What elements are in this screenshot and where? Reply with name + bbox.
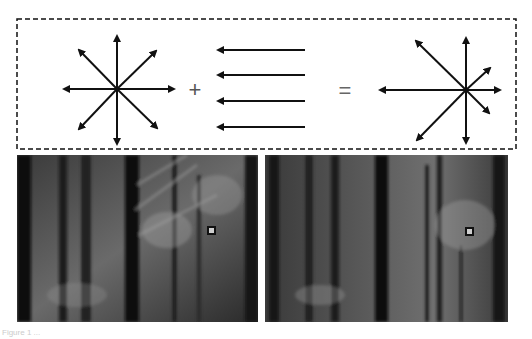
right-forest-photo <box>265 155 508 322</box>
equals-sign: = <box>339 78 352 103</box>
flow-diagram: + = <box>0 0 532 155</box>
translation-arrows-icon <box>218 50 305 127</box>
focus-marker <box>465 227 474 236</box>
dashed-frame <box>17 19 516 149</box>
radial-star-icon <box>64 36 174 144</box>
focus-marker <box>207 226 216 235</box>
plus-sign: + <box>189 77 202 102</box>
shifted-star-icon <box>380 38 500 143</box>
left-forest-photo <box>17 155 258 322</box>
figure-caption: Figure 1 ... <box>2 328 40 337</box>
